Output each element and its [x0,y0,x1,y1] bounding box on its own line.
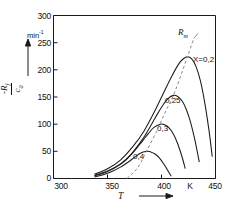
plot-canvas [0,0,230,211]
figure-root: min-1 -Rf c0 T 300 250 200 150 100 50 0 … [0,0,230,211]
axis-frame [54,16,216,179]
y-axis-arrow [25,39,30,76]
x-axis-arrow [139,193,173,198]
y-axis-ticks [54,16,58,179]
curve-0 [95,57,213,174]
rm-leader-line [194,33,198,38]
data-curves [95,57,213,177]
x-axis-ticks [54,175,216,179]
